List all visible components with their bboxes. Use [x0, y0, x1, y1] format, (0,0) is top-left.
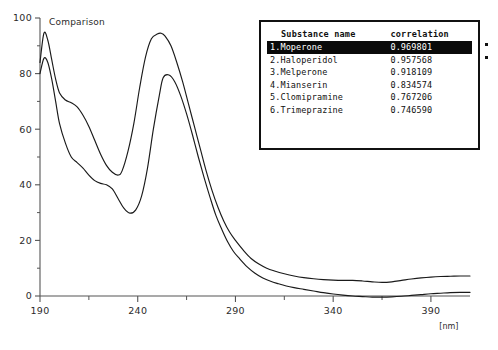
result-substance-name: 5.Clomipramine: [267, 91, 384, 104]
result-correlation-value: 0.969801: [384, 41, 472, 54]
result-correlation-value: 0.957568: [384, 54, 472, 67]
result-correlation-value: 0.767206: [384, 91, 472, 104]
match-results-content: Substance name correlation 1.Moperone0.9…: [261, 22, 478, 148]
result-correlation-value: 0.918109: [384, 66, 472, 79]
result-row[interactable]: 6.Trimeprazine0.746590: [267, 104, 472, 117]
y-axis-tick-label: 40: [19, 179, 32, 190]
result-row[interactable]: 1.Moperone0.969801: [267, 41, 472, 54]
result-row[interactable]: 4.Mianserin0.834574: [267, 79, 472, 92]
result-row[interactable]: 3.Melperone0.918109: [267, 66, 472, 79]
match-results-panel: Substance name correlation 1.Moperone0.9…: [259, 20, 480, 150]
result-substance-name: 1.Moperone: [267, 41, 384, 54]
y-axis-tick-label: 20: [19, 235, 32, 246]
column-header-correlation: correlation: [384, 29, 472, 39]
x-axis-unit-label: [nm]: [439, 322, 458, 331]
y-axis-tick-label: 100: [13, 12, 32, 23]
y-axis-tick-label: 60: [19, 124, 32, 135]
result-row-marker-icon: [485, 43, 488, 46]
results-row-list: 1.Moperone0.9698012.Haloperidol0.9575683…: [267, 41, 472, 116]
x-axis-tick-label: 190: [30, 305, 49, 316]
result-row[interactable]: 2.Haloperidol0.957568: [267, 54, 472, 67]
y-axis-tick-label: 0: [26, 290, 32, 301]
result-substance-name: 4.Mianserin: [267, 79, 384, 92]
results-header-row: Substance name correlation: [267, 29, 472, 41]
x-axis-tick-label: 340: [324, 305, 343, 316]
chart-title: Comparison: [49, 17, 105, 27]
x-axis-tick-label: 390: [421, 305, 440, 316]
result-correlation-value: 0.746590: [384, 104, 472, 117]
result-correlation-value: 0.834574: [384, 79, 472, 92]
column-header-substance-name: Substance name: [267, 29, 384, 39]
x-axis-tick-label: 240: [128, 305, 147, 316]
result-row-marker-icon: [485, 56, 488, 59]
result-substance-name: 6.Trimeprazine: [267, 104, 384, 117]
result-substance-name: 3.Melperone: [267, 66, 384, 79]
spectrum-comparison-window: 020406080100190240290340390[nm]Compariso…: [0, 0, 498, 350]
y-axis-tick-label: 80: [19, 68, 32, 79]
x-axis-tick-label: 290: [226, 305, 245, 316]
result-row[interactable]: 5.Clomipramine0.767206: [267, 91, 472, 104]
result-substance-name: 2.Haloperidol: [267, 54, 384, 67]
